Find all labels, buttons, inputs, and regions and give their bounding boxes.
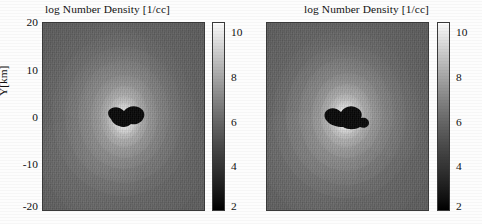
heatmap-plot-right: [266, 22, 429, 211]
y-tick-10: 10: [4, 64, 38, 76]
colorbar-tick-2: 2: [456, 200, 462, 212]
density-field-right: [266, 22, 429, 211]
colorbar-tick-8: 8: [231, 71, 237, 83]
panel-right: log Number Density [1/cc]: [241, 0, 482, 224]
y-axis-ticks: 20 10 0 -10 -20: [0, 0, 38, 224]
colorbar-tick-6: 6: [231, 116, 237, 128]
colorbar-tick-6: 6: [456, 116, 462, 128]
colorbar-tick-2: 2: [231, 200, 237, 212]
density-field-left: [42, 22, 205, 211]
colorbar-ticks-right: 10 8 6 4 2: [453, 0, 479, 224]
colorbar-tick-10: 10: [456, 26, 467, 38]
colorbar-tick-8: 8: [456, 71, 462, 83]
panel-right-title: log Number Density [1/cc]: [259, 3, 474, 15]
y-tick-neg20: -20: [4, 200, 38, 212]
colorbar-tick-4: 4: [231, 160, 237, 172]
y-tick-20: 20: [4, 16, 38, 28]
heatmap-plot-left: [42, 22, 205, 211]
y-tick-0: 0: [4, 111, 38, 123]
colorbar-tick-4: 4: [456, 160, 462, 172]
panel-left: log Number Density [1/cc] Y[km] 20 10 0 …: [0, 0, 241, 224]
colorbar-right: [437, 22, 450, 211]
colorbar-left: [212, 22, 225, 211]
figure-root: log Number Density [1/cc] Y[km] 20 10 0 …: [0, 0, 482, 224]
y-tick-neg10: -10: [4, 158, 38, 170]
